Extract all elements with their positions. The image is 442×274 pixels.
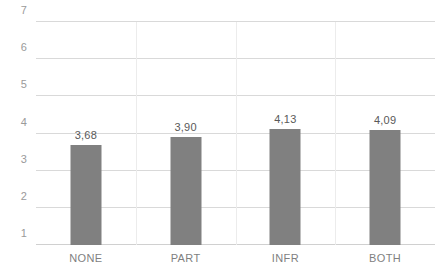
bar-part[interactable] bbox=[170, 137, 201, 245]
bar-infr[interactable] bbox=[270, 129, 301, 245]
y-axis-tick-label-3: 3 bbox=[21, 153, 27, 165]
bar-slot-both: 4,09BOTH bbox=[335, 22, 435, 245]
bar-value-label-infr: 4,13 bbox=[274, 113, 296, 125]
bar-slot-infr: 4,13INFR bbox=[236, 22, 336, 245]
bar-slot-part: 3,90PART bbox=[136, 22, 236, 245]
x-axis-category-label-infr: INFR bbox=[272, 252, 299, 264]
bar-slot-none: 3,68NONE bbox=[36, 22, 136, 245]
x-axis-category-label-none: NONE bbox=[69, 252, 102, 264]
bar-chart: 1234567 3,68NONE3,90PART4,13INFR4,09BOTH bbox=[0, 0, 442, 274]
bar-both[interactable] bbox=[370, 130, 401, 245]
y-axis-tick-label-7: 7 bbox=[21, 4, 27, 16]
bar-value-label-part: 3,90 bbox=[175, 121, 197, 133]
x-axis-category-label-both: BOTH bbox=[369, 252, 401, 264]
y-axis-tick-label-4: 4 bbox=[21, 116, 27, 128]
x-axis-category-label-part: PART bbox=[171, 252, 201, 264]
y-axis-tick-label-6: 6 bbox=[21, 41, 27, 53]
bar-value-label-none: 3,68 bbox=[75, 129, 97, 141]
y-axis-tick-label-2: 2 bbox=[21, 190, 27, 202]
bar-none[interactable] bbox=[70, 145, 101, 245]
plot-area: 1234567 3,68NONE3,90PART4,13INFR4,09BOTH bbox=[36, 22, 435, 245]
y-axis-tick-label-5: 5 bbox=[21, 78, 27, 90]
y-axis-tick-label-1: 1 bbox=[21, 227, 27, 239]
bar-value-label-both: 4,09 bbox=[374, 114, 396, 126]
